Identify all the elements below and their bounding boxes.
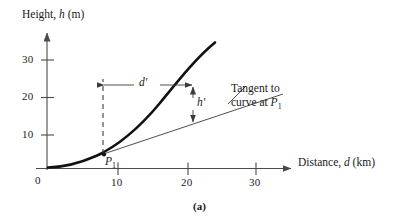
figure-container: Height, h (m) 30 20 10 0 10 20 30 Distan… [0, 0, 401, 223]
x-axis-title-prefix: Distance, [298, 156, 344, 168]
y-tick-label-10: 10 [22, 128, 33, 141]
p1-label: P1 [105, 155, 116, 170]
x-axis-title-unit: (km) [350, 156, 375, 168]
tangent-callout-variable: P [271, 96, 278, 108]
h-prime-label: h′ [197, 96, 205, 109]
y-axis [41, 33, 54, 170]
y-tick-label-20: 20 [22, 90, 33, 103]
figure-canvas [0, 0, 401, 223]
d-prime-label: d′ [139, 76, 147, 89]
x-tick-label-10: 10 [111, 176, 122, 189]
y-tick-label-30: 30 [22, 53, 33, 66]
tangent-callout-line2: curve at P1 [231, 96, 282, 111]
p1-label-variable: P [105, 155, 112, 167]
height-curve [48, 43, 215, 168]
y-axis-title-unit: (m) [65, 8, 84, 20]
tangent-callout-subscript: 1 [278, 102, 282, 111]
x-tick-label-30: 30 [249, 176, 260, 189]
x-axis-title: Distance, d (km) [298, 156, 375, 169]
tangent-callout-line1: Tangent to [231, 82, 280, 95]
figure-caption: (a) [193, 200, 206, 213]
p1-label-subscript: 1 [112, 161, 116, 170]
y-axis-title-prefix: Height, [22, 8, 59, 20]
x-tick-label-20: 20 [181, 176, 192, 189]
tangent-callout-prefix: curve at [231, 96, 271, 108]
origin-label: 0 [35, 174, 41, 187]
y-axis-title: Height, h (m) [22, 8, 84, 21]
